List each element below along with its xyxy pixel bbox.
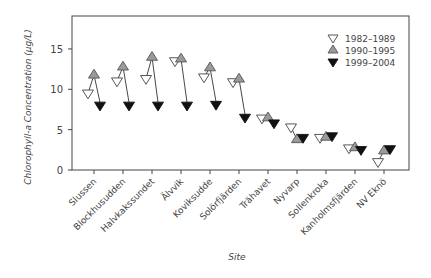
black-down-triangle-marker [211, 101, 222, 110]
legend-label: 1982–1989 [345, 34, 396, 44]
chart: 051015 SlussenBlockhusuddenHalvkakssunde… [0, 0, 431, 278]
gray-up-triangle-marker [205, 62, 216, 71]
legend-marker-icon [328, 45, 338, 53]
y-axis: 051015 [50, 44, 72, 176]
black-down-triangle-marker [153, 102, 164, 111]
open-down-triangle-marker [141, 76, 152, 85]
x-tick-label: Kanholmsfjärden [299, 176, 360, 237]
change-arrow [181, 59, 187, 103]
x-tick-label: Halvkakssundet [99, 176, 157, 234]
change-arrow [123, 67, 129, 103]
x-axis-title: Site [228, 252, 246, 262]
data-points [83, 52, 396, 168]
gray-up-triangle-marker [89, 69, 100, 78]
black-down-triangle-marker [240, 114, 251, 123]
y-tick-label: 5 [57, 125, 63, 136]
black-down-triangle-marker [269, 120, 280, 129]
open-down-triangle-marker [199, 74, 210, 83]
change-arrow [239, 79, 245, 115]
x-tick-label: Älvvik [159, 176, 186, 203]
x-tick-label: NV Eknö [355, 176, 389, 210]
legend: 1982–19891990–19951999–2004 [328, 34, 396, 68]
legend-label: 1999–2004 [345, 58, 396, 68]
y-tick-label: 15 [50, 44, 63, 55]
change-arrows [88, 57, 384, 162]
black-down-triangle-marker [182, 102, 193, 111]
legend-label: 1990–1995 [345, 46, 395, 56]
legend-marker-icon [328, 35, 338, 43]
black-down-triangle-marker [95, 102, 106, 111]
open-down-triangle-marker [83, 90, 94, 99]
gray-up-triangle-marker [118, 61, 129, 70]
x-axis: SlussenBlockhusuddenHalvkakssundetÄlvvik… [67, 170, 389, 237]
change-arrow [94, 75, 100, 103]
black-down-triangle-marker [124, 102, 135, 111]
open-down-triangle-marker [112, 78, 123, 87]
y-tick-label: 0 [57, 165, 63, 176]
y-axis-title: Chlorophyll-a Concentration (µg/L) [23, 29, 33, 185]
change-arrow [210, 68, 216, 102]
open-down-triangle-marker [373, 159, 384, 168]
x-tick-label: Trähavet [237, 176, 273, 212]
x-tick-label: Blockhusudden [72, 176, 128, 232]
open-down-triangle-marker [286, 124, 297, 133]
y-tick-label: 10 [50, 84, 63, 95]
legend-marker-icon [328, 59, 338, 67]
gray-up-triangle-marker [147, 52, 158, 61]
change-arrow [152, 57, 158, 102]
gray-up-triangle-marker [234, 73, 245, 82]
